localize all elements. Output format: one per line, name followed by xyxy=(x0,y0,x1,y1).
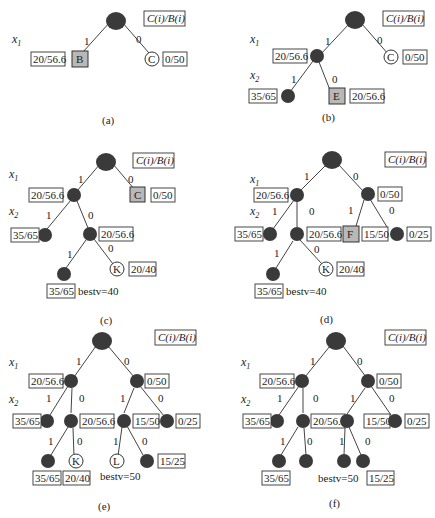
edge-label: 1 xyxy=(350,392,356,404)
edge xyxy=(108,346,134,377)
edge xyxy=(370,199,387,227)
node-value: 20/40 xyxy=(65,472,91,484)
edge-label: 0 xyxy=(142,435,148,447)
edge-label: 0 xyxy=(353,170,359,182)
root-node xyxy=(345,11,365,29)
edge xyxy=(304,428,306,455)
edge-label: 0 xyxy=(377,34,383,46)
edge-label: 0 xyxy=(128,173,134,185)
node-value: 15/50 xyxy=(366,415,392,427)
best-value-label: bestv=40 xyxy=(78,285,119,297)
node-value: 20/56.6 xyxy=(352,90,386,102)
panel-a: 1 0 C(i)/B(i) x1 B 20/56.6 C 0/50 (a) xyxy=(11,11,187,127)
node-value: 35/65 xyxy=(49,285,75,297)
panel-c: 1 0 1 0 1 0 C(i)/B(i) x1 x2 20/56.6 C 0/… xyxy=(8,153,175,327)
edge-label: 1 xyxy=(325,35,331,47)
node-letter: L xyxy=(113,455,120,467)
node-value: 15/50 xyxy=(364,228,390,240)
node-value: 35/65 xyxy=(35,472,61,484)
node-expanded xyxy=(263,227,277,241)
edge-label: 1 xyxy=(272,205,278,217)
best-value-label: bestv=50 xyxy=(318,472,359,484)
node-letter: B xyxy=(76,53,83,65)
root-node xyxy=(96,153,116,171)
edge-label: 0 xyxy=(136,33,142,45)
node-letter: C xyxy=(387,51,394,63)
edge xyxy=(356,200,364,226)
edge xyxy=(73,428,74,456)
node-expanded xyxy=(361,374,375,388)
node-value: 35/65 xyxy=(251,90,277,102)
edge-label: 0 xyxy=(357,355,363,367)
legend-label: C(i)/B(i) xyxy=(386,12,424,25)
root-node xyxy=(106,12,126,30)
node-expanded xyxy=(160,414,174,428)
edge-label: 0 xyxy=(314,243,320,255)
branch-and-bound-figure: 1 0 C(i)/B(i) x1 B 20/56.6 C 0/50 (a) 1 … xyxy=(0,0,435,518)
edge-label: 1 xyxy=(67,248,73,260)
var-label-x1: x1 xyxy=(249,172,259,188)
edge-label: 1 xyxy=(280,435,286,447)
edge-label: 1 xyxy=(310,355,316,367)
node-expanded xyxy=(290,188,304,202)
node-value: 0/50 xyxy=(379,375,399,387)
node-letter: C xyxy=(134,189,141,201)
node-value: 20/40 xyxy=(339,263,365,275)
root-node xyxy=(322,151,342,169)
node-value: 0/50 xyxy=(380,188,400,200)
edge xyxy=(77,201,88,228)
best-value-label: bestv=50 xyxy=(100,470,141,482)
node-value: 0/25 xyxy=(178,415,198,427)
edge-label: 1 xyxy=(113,435,119,447)
node-expanded xyxy=(41,454,55,468)
edge-label: 0 xyxy=(307,435,313,447)
node-value: 35/65 xyxy=(257,285,283,297)
node-value: 0/25 xyxy=(407,415,427,427)
node-value: 35/65 xyxy=(15,415,41,427)
edge-label: 1 xyxy=(84,35,90,47)
legend-label: C(i)/B(i) xyxy=(147,12,185,25)
node-value: 20/56.6 xyxy=(31,375,65,387)
edge xyxy=(349,427,361,455)
edge-label: 0 xyxy=(158,392,164,404)
edge-label: 1 xyxy=(348,204,354,216)
edge xyxy=(319,62,330,90)
panel-caption: (a) xyxy=(102,114,115,127)
edge-label: 1 xyxy=(46,392,52,404)
node-letter: F xyxy=(347,228,353,240)
node-value: 15/50 xyxy=(135,415,161,427)
var-label-x2: x2 xyxy=(8,392,18,408)
edge-label: 0 xyxy=(389,392,395,404)
panel-caption: (b) xyxy=(322,111,335,124)
node-expanded xyxy=(310,49,324,63)
node-value: 20/56.6 xyxy=(256,189,290,201)
var-label-x2: x2 xyxy=(8,204,18,220)
edge-label: 0 xyxy=(309,205,315,217)
legend-label: C(i)/B(i) xyxy=(158,331,196,344)
var-label-x1: x1 xyxy=(8,167,18,183)
panel-caption: (f) xyxy=(329,497,340,510)
node-expanded xyxy=(290,227,304,241)
node-value: 20/56.6 xyxy=(82,415,116,427)
edge-label: 0 xyxy=(332,73,338,85)
node-expanded xyxy=(117,414,131,428)
node-expanded xyxy=(64,374,78,388)
node-value: 0/50 xyxy=(405,51,425,63)
root-node xyxy=(92,332,112,350)
node-expanded xyxy=(340,414,354,428)
node-expanded xyxy=(64,414,78,428)
node-expanded xyxy=(272,454,286,468)
panel-d: 1 0 1 0 1 0 1 0 C(i)/B(i) x1 x2 20/56.6 … xyxy=(235,151,431,326)
node-expanded xyxy=(40,414,54,428)
edge-label: 0 xyxy=(77,435,83,447)
node-value: 35/65 xyxy=(13,229,39,241)
node-value: 20/56.6 xyxy=(262,375,296,387)
node-value: 0/50 xyxy=(147,375,167,387)
node-value: 0/25 xyxy=(409,228,429,240)
edge-label: 1 xyxy=(339,435,345,447)
node-value: 15/25 xyxy=(160,455,186,467)
var-label-x1: x1 xyxy=(8,355,18,371)
node-expanded xyxy=(337,454,351,468)
node-expanded xyxy=(83,227,97,241)
node-expanded xyxy=(281,89,295,103)
